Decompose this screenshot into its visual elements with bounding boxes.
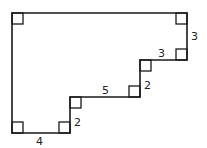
right-angle-marker-step1-inner: [140, 60, 151, 71]
polygon-outline: [12, 13, 187, 133]
label-middle-step-top: 5: [102, 84, 109, 97]
right-angle-marker-top-left: [12, 13, 23, 24]
right-angle-marker-step2-inner: [70, 97, 81, 108]
label-bottom-side: 4: [36, 135, 43, 148]
right-angle-marker-right-bottom: [176, 49, 187, 60]
right-angle-markers: [12, 13, 187, 133]
right-angle-marker-top-right: [176, 13, 187, 24]
right-angle-marker-bottom-left: [12, 122, 23, 133]
staircase-polygon-diagram: 3 3 2 5 2 4: [0, 0, 207, 148]
label-upper-step-riser: 2: [144, 79, 151, 92]
right-angle-marker-step1-outer: [129, 86, 140, 97]
label-right-side: 3: [191, 30, 198, 43]
label-lower-step-riser: 2: [74, 116, 81, 129]
label-upper-step-top: 3: [158, 47, 165, 60]
side-length-labels: 3 3 2 5 2 4: [36, 30, 198, 148]
right-angle-marker-step2-outer: [59, 122, 70, 133]
